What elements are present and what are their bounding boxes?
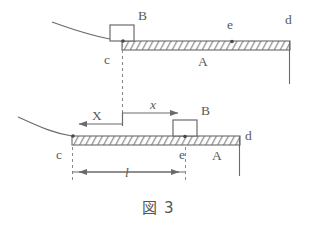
label-displacement-x: x (149, 97, 156, 112)
lower-label-e: e (179, 147, 185, 162)
lower-label-d: d (245, 128, 252, 143)
upper-label-c: c (104, 52, 110, 67)
label-length-l: l (125, 165, 129, 180)
upper-label-e: e (227, 17, 233, 32)
lower-contact-point-c-dot (71, 134, 75, 138)
upper-label-d: d (285, 12, 292, 27)
figure-caption: 図 3 (0, 196, 317, 217)
lower-block-B (173, 120, 197, 136)
upper-beam-A (122, 41, 290, 50)
lower-label-A: A (212, 148, 222, 163)
lower-point-e-dot (183, 135, 187, 139)
label-displacement-X: X (92, 108, 102, 123)
upper-label-B: B (138, 8, 147, 23)
lower-label-B: B (201, 103, 210, 118)
upper-label-A: A (198, 54, 208, 69)
figure-container: B A c d e (0, 0, 317, 237)
lower-beam-A (72, 136, 240, 145)
upper-contact-point-c-dot (121, 39, 125, 43)
lower-label-c: c (56, 147, 62, 162)
upper-point-e-dot (230, 40, 234, 44)
upper-block-B (110, 25, 134, 41)
